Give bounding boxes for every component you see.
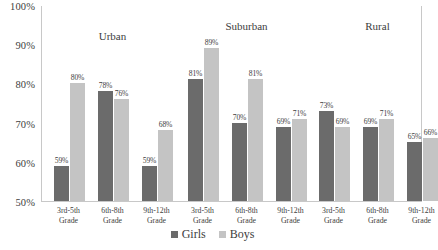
bar-cluster: 69%71% — [363, 6, 394, 201]
x-axis-tick-label-line1: 9th-12th — [408, 206, 434, 216]
x-axis-tick-label-line2: Grade — [408, 216, 434, 226]
x-axis-tick-label: 3rd-5thGrade — [322, 206, 345, 225]
group-title: Suburban — [225, 20, 267, 32]
bar-value-label: 69% — [336, 117, 350, 126]
group-title: Urban — [99, 30, 127, 42]
x-axis-tick-label-line2: Grade — [322, 216, 345, 226]
legend-swatch-icon — [219, 231, 226, 238]
x-axis-tick-label-line2: Grade — [277, 216, 303, 226]
bar-girls: 69% — [363, 127, 378, 201]
x-axis-tick-label-line2: Grade — [191, 216, 214, 226]
x-axis-tick-label-line1: 3rd-5th — [322, 206, 345, 216]
x-axis-tick-label-line2: Grade — [143, 216, 169, 226]
bar-value-label: 65% — [408, 132, 422, 141]
y-axis-tick-label: 60% — [15, 157, 35, 168]
x-axis-tick-label: 6th-8thGrade — [101, 206, 124, 225]
bar-boys: 71% — [379, 119, 394, 201]
x-axis-tick-label-line1: 6th-8th — [366, 206, 389, 216]
bar-boys: 69% — [335, 127, 350, 201]
bar-value-label: 66% — [424, 128, 438, 137]
x-axis-tick-label: 9th-12thGrade — [277, 206, 303, 225]
x-axis-tick-label-line1: 9th-12th — [143, 206, 169, 216]
bar-value-label: 73% — [320, 101, 334, 110]
y-axis-tick-label: 50% — [15, 197, 35, 208]
bar-boys: 66% — [423, 138, 438, 201]
x-axis-tick-label-line2: Grade — [101, 216, 124, 226]
x-axis-tick-label: 9th-12thGrade — [408, 206, 434, 225]
y-axis-tick-label: 100% — [10, 1, 35, 12]
x-axis-tick-label-line2: Grade — [366, 216, 389, 226]
x-axis-tick-label: 6th-8thGrade — [235, 206, 258, 225]
x-axis-tick-label-line1: 3rd-5th — [57, 206, 80, 216]
chart-legend: GirlsBoys — [0, 228, 425, 240]
x-axis-tick-label-line1: 6th-8th — [235, 206, 258, 216]
y-axis-tick-label: 70% — [15, 118, 35, 129]
bar-girls: 73% — [319, 111, 334, 201]
bar-cluster: 65%66% — [407, 6, 438, 201]
legend-item[interactable]: Girls — [171, 228, 206, 240]
bar-girls: 65% — [407, 142, 422, 201]
bar-value-label: 71% — [380, 109, 394, 118]
legend-swatch-icon — [171, 231, 178, 238]
bar-cluster: 73%69% — [319, 6, 350, 201]
x-axis-tick-label-line1: 9th-12th — [277, 206, 303, 216]
x-axis-tick-label: 3rd-5thGrade — [57, 206, 80, 225]
legend-label: Girls — [182, 228, 206, 240]
group-title: Rural — [365, 20, 389, 32]
x-axis-tick-label-line2: Grade — [57, 216, 80, 226]
x-axis-tick-label-line1: 3rd-5th — [191, 206, 214, 216]
y-axis-tick-label: 80% — [15, 79, 35, 90]
x-axis-tick-label: 9th-12thGrade — [143, 206, 169, 225]
legend-label: Boys — [230, 228, 255, 240]
legend-item[interactable]: Boys — [219, 228, 255, 240]
y-axis-tick-label: 90% — [15, 40, 35, 51]
x-axis-tick-label-line2: Grade — [235, 216, 258, 226]
x-axis-tick-label-line1: 6th-8th — [101, 206, 124, 216]
x-axis-tick-label: 6th-8thGrade — [366, 206, 389, 225]
bar-value-label: 69% — [364, 117, 378, 126]
x-axis-tick-label: 3rd-5thGrade — [191, 206, 214, 225]
y-axis: 100%90%80%70%60%50% — [0, 0, 38, 208]
